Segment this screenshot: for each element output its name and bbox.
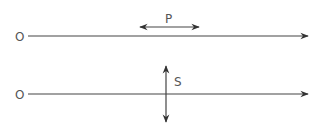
s-wave-row: O S <box>15 66 308 122</box>
origin-label-p: O <box>15 30 24 44</box>
p-wave-row: O P <box>15 12 308 44</box>
s-wave-label: S <box>174 75 182 89</box>
p-wave-label: P <box>165 12 172 26</box>
wave-polarization-diagram: O P O S <box>0 0 319 128</box>
origin-label-s: O <box>15 88 24 102</box>
